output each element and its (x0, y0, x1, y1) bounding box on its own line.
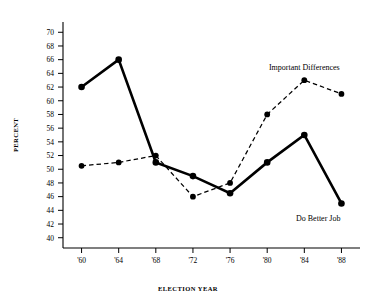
y-tick-group: 40424446485052545658606264666870 (47, 28, 64, 242)
x-tick-label: '72 (189, 256, 198, 265)
y-tick-label: 40 (47, 234, 55, 243)
y-tick-label: 54 (47, 138, 55, 147)
y-tick-label: 64 (47, 69, 55, 78)
data-point (190, 173, 197, 180)
data-point (301, 132, 308, 139)
x-tick-label: '84 (300, 256, 309, 265)
x-tick-label: '64 (114, 256, 123, 265)
y-tick-label: 56 (47, 124, 55, 133)
data-point (153, 153, 159, 159)
y-tick-label: 48 (47, 179, 55, 188)
x-tick-group: '60'64'68'72'76'80'84'88 (77, 248, 346, 265)
x-tick-label: '76 (226, 256, 235, 265)
data-point (115, 56, 122, 63)
y-tick-label: 42 (47, 220, 55, 229)
data-point (227, 180, 233, 186)
x-axis-title: ELECTION YEAR (158, 285, 218, 292)
series-line-important-differences (82, 80, 342, 196)
y-tick-label: 60 (47, 97, 55, 106)
chart-container: 40424446485052545658606264666870 '60'64'… (0, 0, 375, 303)
x-tick-label: '80 (263, 256, 272, 265)
x-tick-label: '88 (337, 256, 346, 265)
y-tick-label: 50 (47, 165, 55, 174)
data-point (264, 159, 271, 166)
data-point (153, 159, 160, 166)
data-point (79, 163, 85, 169)
data-point (301, 77, 307, 83)
y-axis-title: PERCENT (12, 118, 19, 152)
y-tick-label: 44 (47, 206, 55, 215)
series-annotation-important-differences: Important Differences (269, 63, 340, 72)
data-point (227, 190, 234, 197)
data-point (190, 194, 196, 200)
data-point (78, 84, 85, 91)
data-point (339, 91, 345, 97)
y-tick-label: 62 (47, 83, 55, 92)
series-annotation-do-better-job: Do Better Job (296, 214, 340, 223)
data-point (338, 200, 345, 207)
data-point (264, 112, 270, 118)
line-chart: 40424446485052545658606264666870 '60'64'… (0, 0, 375, 303)
y-tick-label: 58 (47, 110, 55, 119)
y-tick-label: 68 (47, 42, 55, 51)
data-point (116, 159, 122, 165)
y-tick-label: 52 (47, 151, 55, 160)
y-tick-label: 66 (47, 55, 55, 64)
series-points-important-differences (79, 77, 345, 199)
y-tick-label: 70 (47, 28, 55, 37)
x-tick-label: '60 (77, 256, 86, 265)
y-tick-label: 46 (47, 192, 55, 201)
x-tick-label: '68 (151, 256, 160, 265)
